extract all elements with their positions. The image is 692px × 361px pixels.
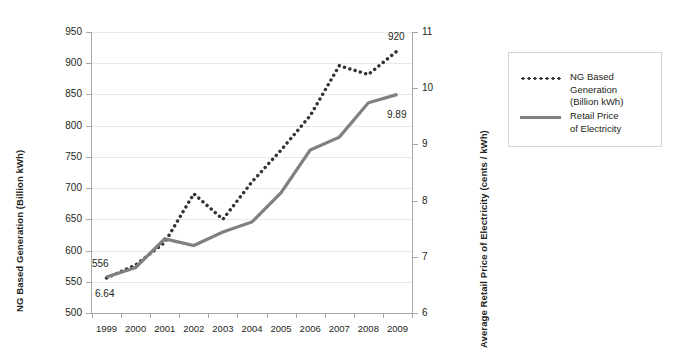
y-axis-left-tick-label: 750 (48, 151, 82, 162)
x-axis-tickmark (150, 313, 151, 318)
y-axis-left-tick-label: 950 (48, 26, 82, 37)
y-axis-right-tick-label: 8 (422, 195, 448, 206)
x-axis-tickmark (179, 313, 180, 318)
x-axis-tickmark (383, 313, 384, 318)
x-axis-tickmark (121, 313, 122, 318)
x-axis-tickmark (354, 313, 355, 318)
x-axis-tickmark (208, 313, 209, 318)
y-axis-left-tick-label: 800 (48, 120, 82, 131)
y-axis-left-tick-label: 650 (48, 213, 82, 224)
legend: NG Based Generation (Billion kWh) Retail… (508, 52, 662, 147)
x-axis-tickmark (237, 313, 238, 318)
y-axis-left-tick-label: 850 (48, 88, 82, 99)
x-axis-tickmark (92, 313, 93, 318)
y-axis-left-title: NG Based Generation (Billion kWh) (14, 150, 25, 312)
y-axis-right-tickmark (412, 88, 418, 89)
chart-container: NG Based Generation (Billion kWh) Averag… (0, 0, 692, 361)
y-axis-right-title: Average Retail Price of Electricity (cen… (478, 130, 489, 348)
y-axis-right-tickmark (412, 201, 418, 202)
y-axis-left-tick-label: 600 (48, 245, 82, 256)
y-axis-right-line (412, 32, 413, 314)
legend-item-ng-generation: NG Based Generation (Billion kWh) (520, 71, 623, 109)
series-layer (92, 32, 412, 313)
series-line-retail-price (107, 94, 398, 277)
data-label-ng-end: 920 (388, 31, 405, 42)
y-axis-right-tick-label: 10 (422, 82, 448, 93)
y-axis-right-tick-label: 9 (422, 138, 448, 149)
y-axis-left-tick-label: 500 (48, 307, 82, 318)
y-axis-right-tick-label: 7 (422, 251, 448, 262)
data-label-ng-start: 556 (92, 258, 109, 269)
solid-line-icon (520, 110, 561, 124)
y-axis-right-tickmark (412, 257, 418, 258)
dotted-line-icon (520, 71, 561, 85)
legend-label-retail-price: Retail Price of Electricity (570, 110, 621, 135)
legend-label-ng-generation: NG Based Generation (Billion kWh) (570, 71, 623, 109)
x-axis-tickmark (296, 313, 297, 318)
data-label-retail-end: 9.89 (387, 109, 406, 120)
y-axis-right-tick-label: 6 (422, 307, 448, 318)
x-axis-line (91, 313, 413, 314)
y-axis-left-tick-label: 900 (48, 57, 82, 68)
y-axis-left-tick-label: 700 (48, 182, 82, 193)
x-axis-tickmark (325, 313, 326, 318)
x-axis-tickmark (412, 313, 413, 318)
x-axis-tick-label: 2009 (377, 323, 417, 334)
y-axis-left-tick-label: 550 (48, 276, 82, 287)
y-axis-right-tickmark (412, 32, 418, 33)
series-line-ng-generation (107, 51, 398, 278)
y-axis-right-tickmark (412, 144, 418, 145)
data-label-retail-start: 6.64 (95, 288, 114, 299)
x-axis-tickmark (267, 313, 268, 318)
y-axis-right-tick-label: 11 (422, 26, 448, 37)
legend-item-retail-price: Retail Price of Electricity (520, 110, 621, 135)
